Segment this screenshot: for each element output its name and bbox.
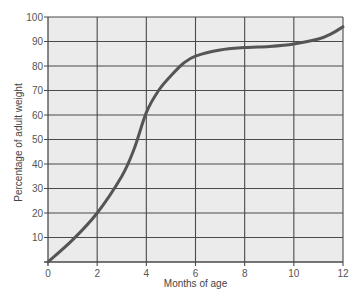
x-tick-label: 12 — [337, 268, 349, 279]
y-tick-label: 50 — [32, 134, 44, 145]
y-tick-labels: 102030405060708090100 — [26, 12, 43, 244]
chart: 024681012 102030405060708090100 Months o… — [0, 0, 364, 301]
x-tick-label: 0 — [45, 268, 51, 279]
y-tick-label: 10 — [32, 232, 44, 243]
x-tick-label: 10 — [288, 268, 300, 279]
x-tick-label: 8 — [242, 268, 248, 279]
y-tick-label: 90 — [32, 36, 44, 47]
y-tick-label: 70 — [32, 85, 44, 96]
y-tick-label: 20 — [32, 208, 44, 219]
y-tick-label: 30 — [32, 183, 44, 194]
y-tick-label: 40 — [32, 159, 44, 170]
x-tick-label: 2 — [94, 268, 100, 279]
x-axis-title: Months of age — [164, 278, 228, 289]
y-tick-label: 80 — [32, 61, 44, 72]
y-tick-label: 100 — [26, 12, 43, 23]
y-axis-title: Percentage of adult weight — [13, 83, 24, 202]
y-tick-label: 60 — [32, 110, 44, 121]
x-tick-label: 4 — [144, 268, 150, 279]
